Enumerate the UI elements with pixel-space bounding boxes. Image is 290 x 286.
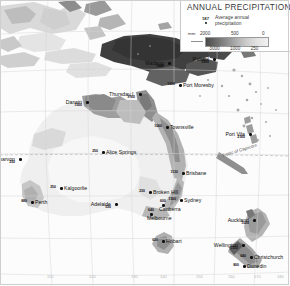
city-dot-icon xyxy=(180,199,183,202)
city-dot-icon xyxy=(249,133,252,136)
city-precipitation-value: 600 xyxy=(160,200,166,204)
city-precipitation-value: 3440 xyxy=(156,65,164,69)
city-precipitation-value: 1150 xyxy=(230,247,238,251)
city-precipitation-value: 1000 xyxy=(167,83,175,87)
city-name-label: Perth xyxy=(35,200,47,205)
city-precipitation-value: 250 xyxy=(92,150,98,154)
city-name-label: Kalgoorlie xyxy=(64,186,87,191)
longitude-label: 130 xyxy=(131,274,138,279)
legend-ramp-leader xyxy=(191,41,203,42)
city-dot-icon xyxy=(115,203,118,206)
city-name-label: Dunedin xyxy=(247,264,266,269)
city-precipitation-value: 1020 xyxy=(241,222,249,226)
city-precipitation-value: 1060 xyxy=(154,125,162,129)
city-name-label: Christchurch xyxy=(254,255,283,260)
city-dot-icon xyxy=(31,201,34,204)
city-dot-icon xyxy=(168,62,171,65)
city-name-label: Broken Hill xyxy=(153,190,178,195)
legend-unit-label: mm xyxy=(188,31,195,36)
city-precipitation-value: 230 xyxy=(139,190,145,194)
legend-key-line1: Average annual xyxy=(215,15,249,21)
city-dot-icon xyxy=(102,151,105,154)
longitude-label: 180 xyxy=(277,274,284,279)
longitude-label: 150 xyxy=(196,274,203,279)
city-precipitation-value: 880 xyxy=(21,200,27,204)
city-symbol-icon: 187 xyxy=(202,16,214,28)
city-dot-icon xyxy=(243,265,246,268)
legend-key: 187 Average annual precipitation xyxy=(202,16,290,30)
city-dot-icon xyxy=(60,187,63,190)
city-precipitation-value: 640 xyxy=(240,255,246,259)
key-sample-value: 187 xyxy=(202,16,209,21)
city-name-label: Brisbane xyxy=(186,171,206,176)
precipitation-map-figure: Madang3440Rabaul2060Port Moresby1000Thur… xyxy=(0,0,290,286)
legend-key-text: Average annual precipitation xyxy=(215,15,249,26)
legend-tick-bottom: 250 xyxy=(251,46,259,51)
city-dot-icon xyxy=(213,58,216,61)
city-dot-icon xyxy=(139,93,142,96)
legend-tick-top: 500 xyxy=(231,31,239,36)
city-precipitation-value: 2060 xyxy=(201,61,209,65)
city-precipitation-value: 620 xyxy=(152,239,158,243)
longitude-label: 140 xyxy=(160,274,167,279)
longitude-label: 120 xyxy=(89,274,96,279)
legend-tick-top: 2000 xyxy=(200,31,210,36)
city-dot-icon xyxy=(182,172,185,175)
city-name-label: Canberra xyxy=(159,207,181,212)
longitude-label: 160 xyxy=(228,274,235,279)
city-precipitation-value: 230 xyxy=(9,161,15,165)
legend-tick-bottom: 1000 xyxy=(230,46,240,51)
city-name-label: Sydney xyxy=(184,198,201,203)
city-precipitation-value: 530 xyxy=(105,206,111,210)
longitude-label: 170 xyxy=(254,274,261,279)
city-dot-icon xyxy=(19,158,22,161)
city-precipitation-value: 800 xyxy=(233,264,239,268)
city-precipitation-value: 2160 xyxy=(237,136,245,140)
city-dot-icon xyxy=(162,240,165,243)
city-name-label: Alice Springs xyxy=(106,150,136,155)
city-precipitation-value: 250 xyxy=(50,186,56,190)
city-precipitation-value: 1130 xyxy=(170,171,178,175)
city-name-label: Townsville xyxy=(170,125,194,130)
legend-panel: ANNUAL PRECIPITATION 187 Average annual … xyxy=(180,0,290,52)
city-dot-icon xyxy=(149,191,152,194)
legend-title: ANNUAL PRECIPITATION xyxy=(187,3,287,12)
legend-tick-top: 0 xyxy=(262,31,265,36)
city-name-label: Melbourne xyxy=(147,216,172,221)
legend-color-ramp-wrap: 2000500030001000250 xyxy=(205,37,267,45)
legend-key-line2: precipitation xyxy=(215,21,249,27)
city-dot-icon xyxy=(250,256,253,259)
city-precipitation-value: 1160 xyxy=(168,198,176,202)
city-precipitation-value: 1760 xyxy=(127,96,135,100)
city-dot-icon xyxy=(205,22,207,24)
city-dot-icon xyxy=(179,84,182,87)
city-dot-icon xyxy=(242,244,245,247)
city-precipitation-value: 640 xyxy=(148,209,154,213)
legend-tick-bottom: 3000 xyxy=(209,46,219,51)
city-name-label: Hobart xyxy=(166,239,182,244)
city-dot-icon xyxy=(86,101,89,104)
city-dot-icon xyxy=(166,126,169,129)
city-dot-icon xyxy=(253,219,256,222)
longitude-label: 110 xyxy=(47,274,53,279)
city-name-label: Port Moresby xyxy=(183,83,214,88)
city-precipitation-value: 1500 xyxy=(74,104,82,108)
